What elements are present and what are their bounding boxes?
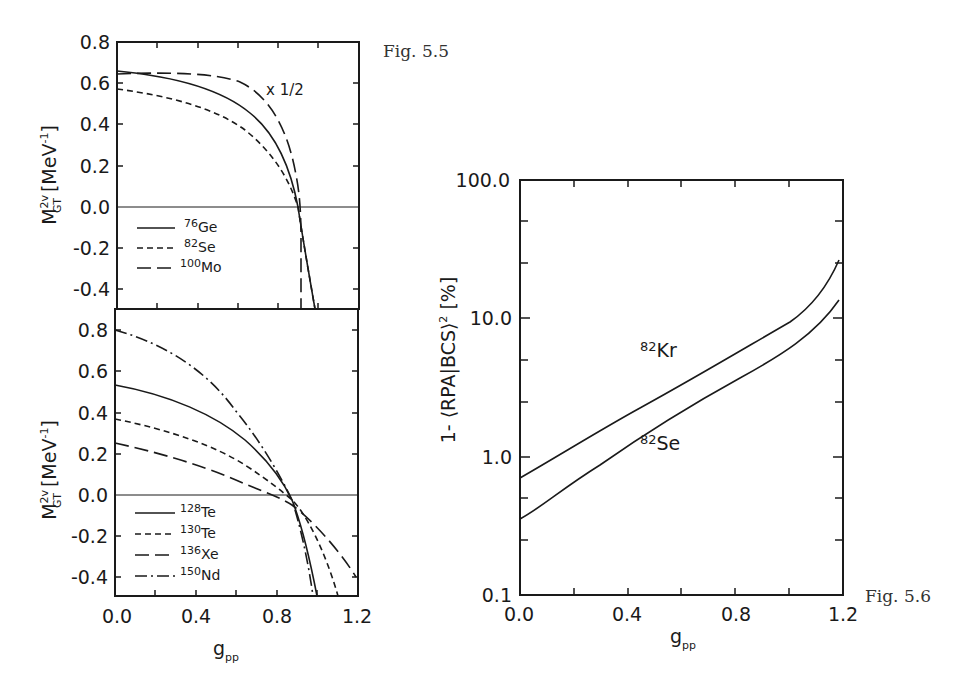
tick-label: -0.2 <box>71 525 108 547</box>
curve-130te <box>115 419 338 596</box>
legend-item-150nd: 150Nd <box>180 565 220 583</box>
tick-label: 1.2 <box>828 603 858 625</box>
tick-label: 0.0 <box>504 603 534 625</box>
top-y-ticks <box>117 83 359 289</box>
label-82se: 82Se <box>640 432 680 454</box>
bottom-legend: 128Te 130Te 136Xe 150Nd <box>135 502 220 583</box>
tick-label: 0.4 <box>181 605 211 627</box>
right-y-tick-labels: 100.0 10.0 1.0 0.1 <box>456 169 512 606</box>
tick-label: 0.8 <box>80 31 110 53</box>
tick-label: -0.4 <box>71 566 108 588</box>
fig56-caption: Fig. 5.6 <box>865 586 931 606</box>
tick-label: 0.8 <box>262 605 292 627</box>
bottom-y-tick-labels: 0.8 0.6 0.4 0.2 0.0 -0.2 -0.4 <box>71 319 108 588</box>
tick-label: 0.0 <box>102 605 132 627</box>
bottom-curves <box>115 330 356 596</box>
bottom-x-tick-labels: 0.0 0.4 0.8 1.2 <box>102 605 372 627</box>
tick-label: 0.8 <box>78 319 108 341</box>
tick-label: 0.6 <box>78 360 108 382</box>
right-x-ticks <box>574 180 789 595</box>
tick-label: 0.4 <box>612 603 642 625</box>
legend-item-130te: 130Te <box>180 523 216 541</box>
tick-label: 0.0 <box>78 484 108 506</box>
tick-label: -0.2 <box>73 237 110 259</box>
tick-label: 0.4 <box>80 113 110 135</box>
bottom-x-axis-label: gpp <box>213 637 239 664</box>
fig55-caption: Fig. 5.5 <box>383 41 449 61</box>
right-frame <box>520 180 843 595</box>
tick-label: -0.4 <box>73 278 110 300</box>
legend-item-100mo: 100Mo <box>180 257 222 275</box>
curve-136xe <box>115 443 356 577</box>
tick-label: 0.8 <box>721 603 751 625</box>
bottom-frame <box>115 309 358 596</box>
legend-item-76ge: 76Ge <box>184 217 217 235</box>
legend-item-136xe: 136Xe <box>180 544 219 562</box>
legend-item-82se: 82Se <box>184 237 216 255</box>
top-legend: 76Ge 82Se 100Mo <box>137 217 222 275</box>
fig55-top-panel: 0.8 0.6 0.4 0.2 0.0 -0.2 -0.4 M2vGT[MeV-… <box>38 31 359 309</box>
curve-82se <box>117 89 315 309</box>
tick-label: 1.2 <box>342 605 372 627</box>
bottom-y-ticks <box>115 330 358 577</box>
top-y-axis-label: M2vGT[MeV-1] <box>38 125 64 225</box>
top-y-tick-labels: 0.8 0.6 0.4 0.2 0.0 -0.2 -0.4 <box>73 31 110 300</box>
right-y-axis-label: 1- ⟨RPA|BCS⟩2 [%] <box>437 277 460 444</box>
tick-label: 0.2 <box>78 443 108 465</box>
tick-label: 100.0 <box>456 169 510 191</box>
curve-82se-log <box>520 300 839 519</box>
right-x-axis-label: gpp <box>670 625 696 652</box>
right-curves <box>520 260 839 519</box>
fig56-panel: 100.0 10.0 1.0 0.1 0.0 0.4 0.8 1.2 gpp 1… <box>437 169 858 652</box>
tick-label: 10.0 <box>470 307 512 329</box>
tick-label: 1.0 <box>482 446 512 468</box>
fig55-bottom-panel: 0.8 0.6 0.4 0.2 0.0 -0.2 -0.4 0.0 0.4 0.… <box>38 309 372 664</box>
tick-label: 0.4 <box>78 402 108 424</box>
scale-annotation: x 1/2 <box>266 81 304 99</box>
bottom-y-axis-label: M2vGT[MeV-1] <box>38 420 64 520</box>
legend-item-128te: 128Te <box>180 502 216 520</box>
figure-canvas: 0.8 0.6 0.4 0.2 0.0 -0.2 -0.4 M2vGT[MeV-… <box>0 0 969 673</box>
right-x-tick-labels: 0.0 0.4 0.8 1.2 <box>504 603 858 625</box>
label-82kr: 82Kr <box>640 339 677 361</box>
tick-label: 0.6 <box>80 72 110 94</box>
tick-label: 0.0 <box>80 196 110 218</box>
tick-label: 0.2 <box>80 155 110 177</box>
right-y-ticks <box>520 221 843 540</box>
